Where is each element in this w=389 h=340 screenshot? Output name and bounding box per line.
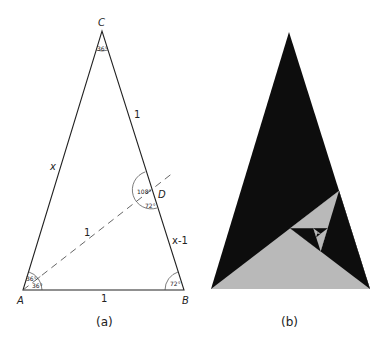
figure-a: C A B D x 1 x-1 1 1 36° 36° 36° 72° 108°… — [16, 17, 189, 329]
figure-b-golden-spiral-triangles — [211, 32, 370, 289]
angle-label-c: 36° — [97, 45, 108, 52]
angle-label-a-upper: 36° — [26, 275, 37, 282]
caption-b: (b) — [281, 315, 298, 329]
vertex-label-d: D — [158, 189, 166, 200]
vertex-label-a: A — [16, 295, 24, 306]
angle-label-a-lower: 36° — [32, 282, 43, 289]
angle-label-d-left: 108° — [137, 188, 151, 195]
angle-label-b: 72° — [170, 280, 181, 287]
vertex-label-c: C — [98, 17, 105, 28]
triangle-abc — [23, 31, 184, 290]
side-label-ac: x — [49, 161, 56, 172]
side-label-ab: 1 — [101, 293, 107, 304]
caption-a: (a) — [96, 315, 113, 329]
angle-label-d-right: 72° — [145, 202, 156, 209]
side-label-cd: 1 — [134, 109, 140, 120]
side-label-db: x-1 — [172, 235, 188, 246]
side-label-ad: 1 — [84, 227, 90, 238]
vertex-label-b: B — [182, 295, 189, 306]
golden-triangle-figure: C A B D x 1 x-1 1 1 36° 36° 36° 72° 108°… — [0, 0, 389, 340]
